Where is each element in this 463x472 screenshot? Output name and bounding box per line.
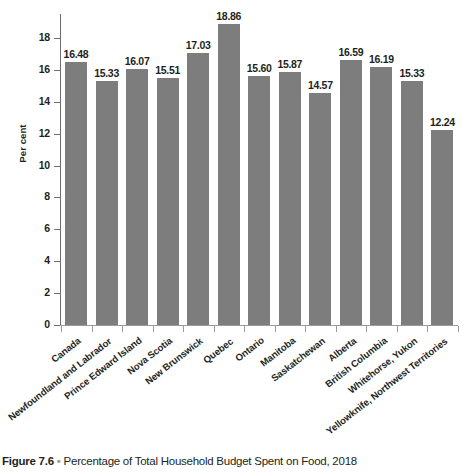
x-axis-label: Quebec <box>201 335 235 365</box>
x-tick-mark <box>153 326 154 332</box>
y-tick-mark <box>54 134 60 135</box>
bar[interactable] <box>218 24 240 325</box>
y-tick-label: 18 <box>10 31 50 43</box>
y-tick-mark <box>54 102 60 103</box>
bar[interactable] <box>340 60 362 325</box>
caption-text: Percentage of Total Household Budget Spe… <box>64 455 357 467</box>
x-tick-mark <box>336 326 337 332</box>
bar[interactable] <box>187 53 209 325</box>
y-axis-title: Per cent <box>17 104 28 184</box>
x-tick-mark <box>275 326 276 332</box>
figure-caption: Figure 7.6•Percentage of Total Household… <box>2 455 461 467</box>
x-tick-mark <box>427 326 428 332</box>
bar[interactable] <box>248 76 270 325</box>
x-tick-mark <box>214 326 215 332</box>
bar-slot: 12.24 <box>427 14 458 325</box>
y-tick-mark <box>54 293 60 294</box>
y-tick-mark <box>54 166 60 167</box>
bar-slot: 16.48 <box>61 14 92 325</box>
y-tick-label: 4 <box>10 254 50 266</box>
bar[interactable] <box>126 69 148 325</box>
bar-slot: 14.57 <box>305 14 336 325</box>
bar[interactable] <box>96 81 118 325</box>
figure-number: Figure 7.6 <box>2 455 54 467</box>
x-tick-mark <box>397 326 398 332</box>
x-tick-mark <box>92 326 93 332</box>
x-axis-label: Saskatchewan <box>269 335 327 384</box>
y-tick-label: 6 <box>10 222 50 234</box>
bar-slot: 16.07 <box>122 14 153 325</box>
x-tick-mark <box>61 326 62 332</box>
y-tick-mark <box>54 261 60 262</box>
y-tick-label: 16 <box>10 63 50 75</box>
y-tick-mark <box>54 38 60 39</box>
bar-slot: 15.51 <box>153 14 184 325</box>
bar-slot: 15.87 <box>275 14 306 325</box>
caption-bullet-icon: • <box>54 455 64 467</box>
y-tick-label: 0 <box>10 318 50 330</box>
y-tick-label: 12 <box>10 127 50 139</box>
x-axis-line <box>60 325 458 326</box>
figure-container: Per cent 024681012141618 16.4815.3316.07… <box>0 0 463 472</box>
bar[interactable] <box>157 78 179 325</box>
x-tick-mark <box>244 326 245 332</box>
y-tick-label: 14 <box>10 95 50 107</box>
y-tick-mark <box>54 70 60 71</box>
bar-value-label: 12.24 <box>421 116 463 128</box>
x-tick-mark <box>458 326 459 332</box>
bar-slot: 17.03 <box>183 14 214 325</box>
bar-series: 16.4815.3316.0715.5117.0318.8615.6015.87… <box>61 14 458 325</box>
y-tick-label: 8 <box>10 190 50 202</box>
bar[interactable] <box>431 130 453 325</box>
x-tick-mark <box>305 326 306 332</box>
bar-slot: 18.86 <box>214 14 245 325</box>
x-tick-mark <box>122 326 123 332</box>
bar[interactable] <box>65 62 87 325</box>
bar-slot: 16.19 <box>366 14 397 325</box>
y-tick-mark <box>54 325 60 326</box>
bar[interactable] <box>370 67 392 325</box>
y-tick-mark <box>54 197 60 198</box>
bar-slot: 15.33 <box>397 14 428 325</box>
y-tick-mark <box>54 229 60 230</box>
bar[interactable] <box>401 81 423 325</box>
x-tick-mark <box>366 326 367 332</box>
bar[interactable] <box>309 93 331 325</box>
y-tick-label: 10 <box>10 159 50 171</box>
x-tick-mark <box>183 326 184 332</box>
y-tick-label: 2 <box>10 286 50 298</box>
bar[interactable] <box>279 72 301 325</box>
